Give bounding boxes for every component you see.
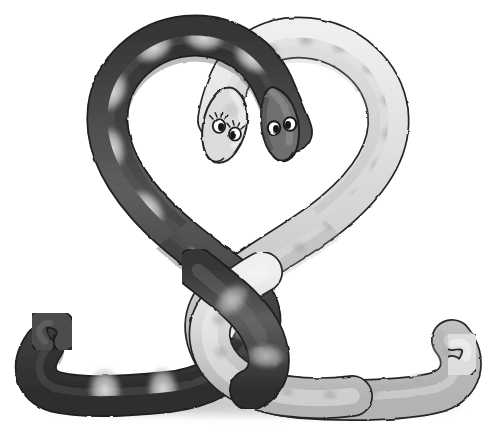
paper-grain-overlay xyxy=(0,0,493,446)
snakes-heart-illustration xyxy=(0,0,493,446)
drawing-canvas: Two Snakes Forming a Heart xyxy=(0,0,493,446)
